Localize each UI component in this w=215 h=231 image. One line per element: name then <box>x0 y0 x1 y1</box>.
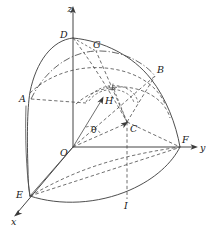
geometry-figure: z y x A B C D E F G H I O θ <box>0 0 215 231</box>
axis-label-z: z <box>66 3 73 14</box>
point-label-O: O <box>60 147 68 158</box>
point-label-I: I <box>123 200 128 211</box>
axis-label-y: y <box>199 142 206 153</box>
point-label-G: G <box>93 39 101 50</box>
line-C-to-B <box>127 76 155 122</box>
line-O-to-B <box>73 76 155 147</box>
line-A-horizontal <box>31 99 86 103</box>
arc-outline-bottom <box>30 147 180 202</box>
point-label-C: C <box>130 123 138 134</box>
angle-label-theta: θ <box>91 125 97 135</box>
diagram-canvas: z y x A B C D E F G H I O θ <box>0 0 215 231</box>
arc-outline-right <box>73 38 180 147</box>
point-label-A: A <box>18 93 26 104</box>
arc-outline-left <box>27 38 73 196</box>
arrowhead-H <box>97 97 103 105</box>
point-label-E: E <box>15 189 23 200</box>
axis-label-x: x <box>11 216 17 227</box>
vector-O-to-H <box>73 101 101 147</box>
point-label-H: H <box>104 95 114 106</box>
point-label-F: F <box>181 134 189 145</box>
line-C-to-cap <box>113 87 127 122</box>
point-label-B: B <box>156 64 164 75</box>
line-O-to-C <box>73 124 125 147</box>
point-label-D: D <box>59 29 68 40</box>
